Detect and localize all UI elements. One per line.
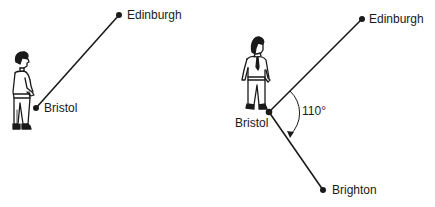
angle-arc-icon [287, 91, 300, 138]
edinburgh-point-right [359, 16, 365, 22]
edinburgh-label-right: Edinburgh [369, 13, 424, 25]
bristol-point-right [266, 109, 273, 116]
bristol-edinburgh-line-right [269, 19, 362, 112]
bristol-label-right: Bristol [235, 117, 268, 129]
edinburgh-point-left [116, 12, 122, 18]
angle-label: 110° [302, 105, 326, 117]
brighton-label: Brighton [332, 184, 377, 196]
person-figure-left-icon [13, 52, 34, 129]
bristol-edinburgh-line-left [36, 15, 119, 108]
edinburgh-label-left: Edinburgh [127, 9, 182, 21]
bristol-point-left [33, 105, 39, 111]
person-figure-right-icon [242, 37, 270, 109]
bristol-brighton-line [269, 112, 323, 190]
brighton-point [320, 187, 326, 193]
diagram-canvas: Edinburgh Bristol Edinburgh Bristol Brig… [0, 0, 435, 207]
bristol-label-left: Bristol [44, 102, 77, 114]
